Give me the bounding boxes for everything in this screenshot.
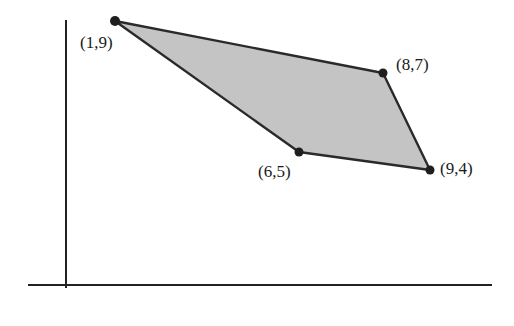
vertex-label-9-4: (9,4) [440, 160, 473, 177]
vertex-label-6-5: (6,5) [258, 163, 291, 180]
vertex-point-6-5 [295, 148, 304, 157]
diagram-svg [0, 0, 514, 326]
vertex-label-1-9: (1,9) [80, 34, 113, 51]
diagram-canvas: (1,9) (8,7) (9,4) (6,5) [0, 0, 514, 326]
vertex-label-8-7: (8,7) [396, 56, 429, 73]
vertex-point-9-4 [426, 166, 435, 175]
vertex-point-1-9 [110, 16, 120, 26]
vertex-point-8-7 [379, 69, 388, 78]
feasible-region-polygon [115, 21, 430, 170]
